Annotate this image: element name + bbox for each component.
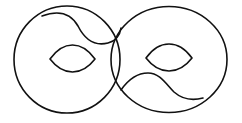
left-hole bbox=[50, 45, 95, 72]
right-cut-curve bbox=[121, 73, 203, 99]
right-hole bbox=[146, 44, 192, 71]
right-torus-outline bbox=[111, 7, 227, 113]
left-cut-curve bbox=[42, 13, 121, 44]
diagram-svg bbox=[0, 0, 242, 123]
genus-two-surface-diagram bbox=[0, 0, 242, 123]
left-torus-outline bbox=[14, 6, 120, 113]
